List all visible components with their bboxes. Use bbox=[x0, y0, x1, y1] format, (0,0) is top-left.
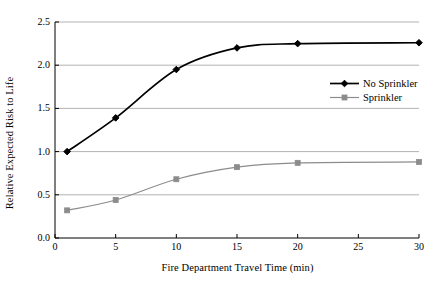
x-axis-tick-marks bbox=[55, 234, 419, 238]
legend-marker bbox=[342, 95, 347, 100]
x-tick-label: 15 bbox=[222, 242, 252, 252]
series-line bbox=[67, 162, 419, 210]
data-point bbox=[113, 197, 118, 202]
data-point bbox=[235, 165, 240, 170]
data-point bbox=[174, 177, 179, 182]
y-axis-tick-marks bbox=[55, 22, 59, 238]
y-tick-label: 2.5 bbox=[26, 17, 50, 27]
legend-marker bbox=[341, 80, 348, 87]
data-point bbox=[417, 159, 422, 164]
x-tick-label: 30 bbox=[404, 242, 434, 252]
series-sprinkler bbox=[65, 159, 422, 212]
x-tick-label: 20 bbox=[283, 242, 313, 252]
axis-lines bbox=[55, 22, 419, 238]
data-point bbox=[234, 45, 241, 52]
legend-label-sprinkler: Sprinkler bbox=[363, 92, 402, 103]
y-tick-label: 2.0 bbox=[26, 60, 50, 70]
legend-label-no-sprinkler: No Sprinkler bbox=[363, 78, 418, 89]
y-tick-label: 0.5 bbox=[26, 190, 50, 200]
legend-markers bbox=[330, 80, 359, 100]
data-point bbox=[295, 160, 300, 165]
x-tick-label: 25 bbox=[343, 242, 373, 252]
chart-figure: Relative Expected Risk to Life 0.00.51.0… bbox=[0, 0, 441, 286]
data-point bbox=[65, 208, 70, 213]
x-axis-title: Fire Department Travel Time (min) bbox=[55, 262, 420, 273]
x-tick-label: 5 bbox=[101, 242, 131, 252]
y-tick-label: 1.0 bbox=[26, 147, 50, 157]
y-tick-label: 1.5 bbox=[26, 103, 50, 113]
data-point bbox=[294, 40, 301, 47]
data-point bbox=[416, 39, 423, 46]
x-tick-label: 10 bbox=[161, 242, 191, 252]
x-tick-label: 0 bbox=[40, 242, 70, 252]
